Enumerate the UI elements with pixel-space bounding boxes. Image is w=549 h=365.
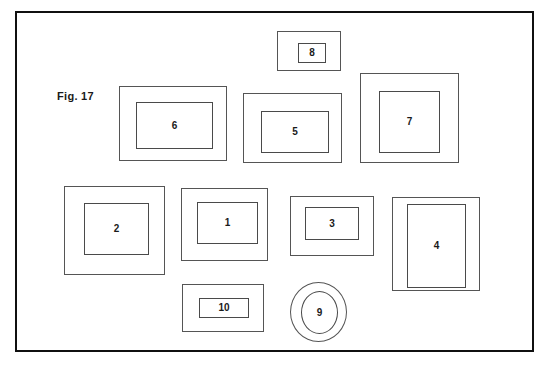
part-10-inner: 10	[199, 298, 249, 318]
part-4-inner: 4	[407, 204, 466, 288]
part-number-label: 2	[114, 224, 120, 234]
part-number-label: 10	[218, 303, 229, 313]
figure-canvas: Fig. 17 86572134109	[0, 0, 549, 365]
part-number-label: 3	[329, 219, 335, 229]
part-8-outer: 8	[277, 31, 341, 71]
part-5-outer: 5	[243, 93, 342, 163]
part-9-inner: 9	[301, 291, 338, 334]
part-number-label: 7	[407, 117, 413, 127]
part-2-outer: 2	[64, 186, 165, 275]
part-number-label: 6	[172, 121, 178, 131]
part-9-outer: 9	[290, 282, 347, 342]
part-4-outer: 4	[392, 197, 480, 291]
part-6-inner: 6	[136, 102, 213, 149]
part-8-inner: 8	[298, 43, 326, 63]
part-7-outer: 7	[360, 73, 459, 163]
part-2-inner: 2	[84, 203, 149, 255]
part-6-outer: 6	[119, 86, 227, 161]
part-number-label: 9	[317, 308, 323, 318]
part-7-inner: 7	[379, 91, 440, 153]
part-3-inner: 3	[305, 207, 359, 240]
part-number-label: 4	[434, 241, 440, 251]
part-1-inner: 1	[197, 202, 258, 244]
part-number-label: 5	[292, 127, 298, 137]
part-10-outer: 10	[182, 284, 264, 332]
part-3-outer: 3	[290, 196, 374, 256]
part-5-inner: 5	[261, 111, 329, 153]
part-1-outer: 1	[181, 188, 268, 261]
figure-label: Fig. 17	[57, 90, 94, 102]
part-number-label: 1	[225, 218, 231, 228]
part-number-label: 8	[309, 48, 315, 58]
figure-border-frame: Fig. 17 86572134109	[15, 11, 534, 352]
